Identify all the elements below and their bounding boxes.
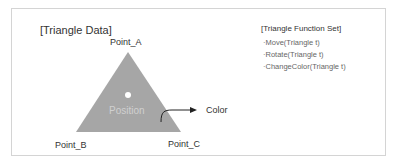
- function-item-rotate: ·Rotate(Triangle t): [263, 50, 324, 59]
- triangle-shape: [76, 52, 181, 132]
- position-dot: [125, 92, 131, 98]
- function-item-move: ·Move(Triangle t): [263, 38, 320, 47]
- point-c-label: Point_C: [168, 139, 200, 149]
- point-a-label: Point_A: [110, 37, 142, 47]
- position-label: Position: [109, 105, 145, 116]
- function-item-changecolor: ·ChangeColor(Triangle t): [263, 62, 346, 71]
- function-set-title: [Triangle Function Set]: [261, 24, 341, 33]
- arrow-head-icon: [190, 107, 197, 113]
- color-label: Color: [206, 105, 228, 115]
- point-b-label: Point_B: [55, 140, 87, 150]
